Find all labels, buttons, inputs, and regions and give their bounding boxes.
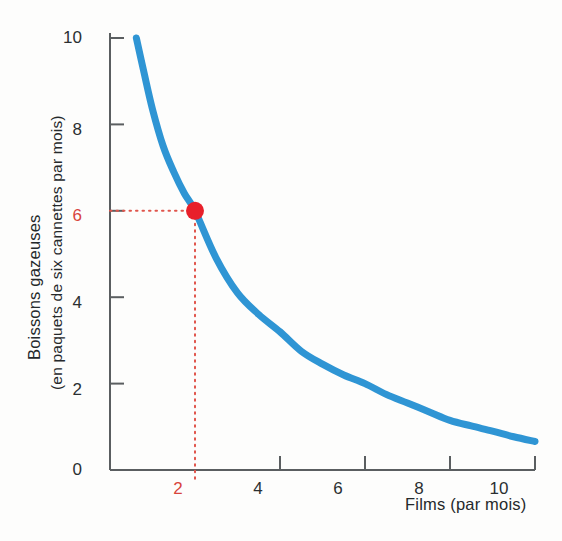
- chart-figure: Boissons gazeuses (en paquets de six can…: [0, 0, 562, 541]
- data-point-c: [186, 202, 204, 220]
- x-axis-ticks: [280, 456, 535, 470]
- plot-area: [0, 0, 562, 541]
- indifference-curve: [136, 38, 535, 441]
